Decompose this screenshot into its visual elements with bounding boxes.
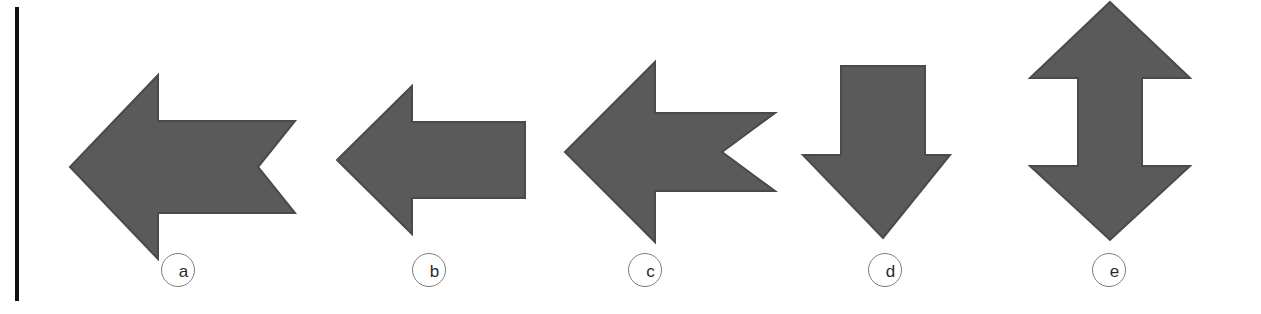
label-badge-b: b xyxy=(412,253,446,287)
label-badge-a: a xyxy=(161,253,195,287)
label-text-c: c xyxy=(629,254,663,288)
figure-panel: a b c d e xyxy=(0,0,1261,314)
label-badge-e: e xyxy=(1092,253,1126,287)
label-badge-d: d xyxy=(868,253,902,287)
label-text-e: e xyxy=(1093,254,1127,288)
label-badge-c: c xyxy=(628,253,662,287)
label-text-a: a xyxy=(162,254,196,288)
label-text-b: b xyxy=(413,254,447,288)
label-text-d: d xyxy=(869,254,903,288)
double-headed-vertical-arrow-e xyxy=(1030,2,1190,240)
